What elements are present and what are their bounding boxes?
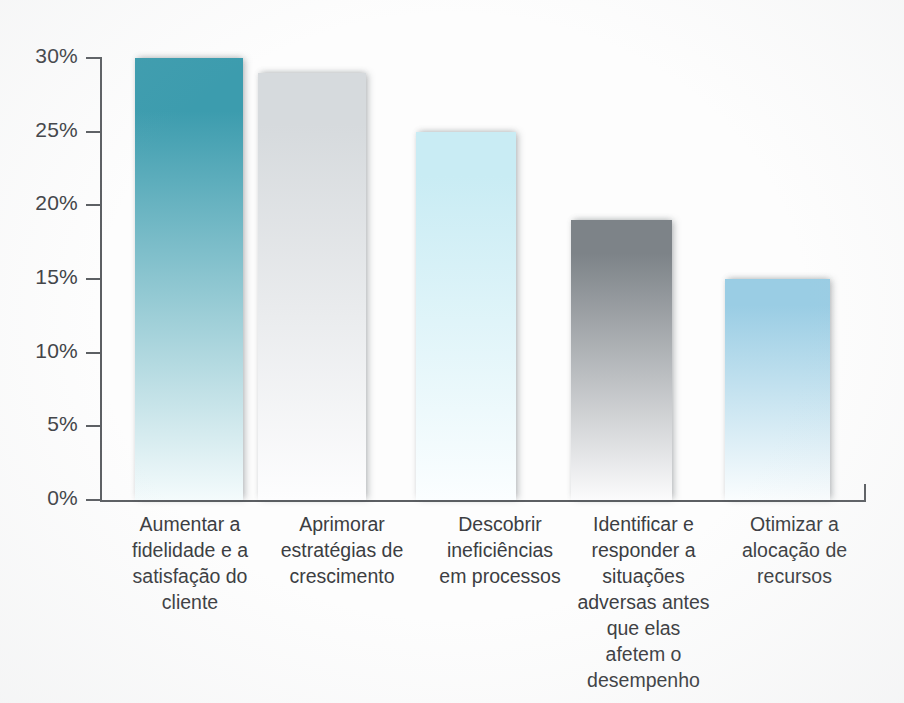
category-label: Identificar e responder a situações adve… [556,511,731,693]
bar-fill [725,279,830,500]
category-label: Otimizar a alocação de recursos [712,511,877,589]
y-axis-tick-mark [86,425,101,427]
category-label: Aprimorar estratégias de crescimento [252,511,432,589]
bar[interactable] [416,132,516,500]
y-axis-tick-label: 0% [0,486,78,510]
y-axis-tick-mark [86,131,101,133]
bar-chart: 30%25%20%15%10%5%0% Aumentar a fidelidad… [0,0,904,703]
y-axis-tick-label: 5% [0,412,78,436]
y-axis-tick-mark [86,57,101,59]
y-axis-tick-label: 20% [0,191,78,215]
bar[interactable] [725,279,830,500]
y-axis-tick-mark [86,352,101,354]
bar[interactable] [258,73,366,500]
y-axis-tick-label: 15% [0,265,78,289]
bars-container [100,58,866,500]
y-axis-tick-label: 10% [0,339,78,363]
x-axis-line [100,500,866,502]
y-axis-tick-mark [86,204,101,206]
bar-fill [416,132,516,500]
bar-fill [571,220,672,500]
bar-fill [258,73,366,500]
bar[interactable] [135,58,243,500]
y-axis-tick-label: 30% [0,44,78,68]
y-axis-tick-label: 25% [0,118,78,142]
y-axis-tick-mark [86,278,101,280]
bar[interactable] [571,220,672,500]
y-axis-tick-mark [86,499,101,501]
bar-fill [135,58,243,500]
